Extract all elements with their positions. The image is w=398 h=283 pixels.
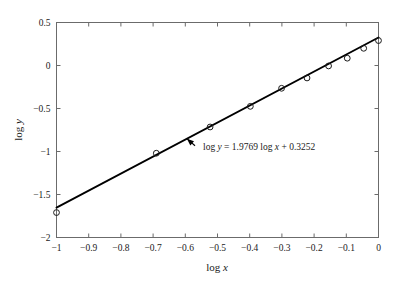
log-log-regression-chart: −1−0.9−0.8−0.7−0.6−0.5−0.4−0.3−0.2−0.10 …	[0, 0, 398, 283]
x-tick-label: −0.6	[177, 243, 194, 253]
regression-equation-annotation: log y = 1.9769 log x + 0.3252	[203, 142, 316, 152]
x-tick-label: −0.3	[273, 243, 290, 253]
annot-slope: 1.9769	[232, 142, 258, 152]
figure-container: −1−0.9−0.8−0.7−0.6−0.5−0.4−0.3−0.2−0.10 …	[0, 0, 398, 283]
y-tick-label: −0.5	[33, 104, 50, 114]
x-axis-title-var: x	[222, 261, 228, 273]
y-tick-label: 0.5	[39, 18, 51, 28]
annot-log-1: log	[203, 142, 215, 152]
x-tick-label: −0.8	[112, 243, 129, 253]
x-axis-title-log: log	[206, 261, 221, 273]
y-tick-label: 0	[46, 61, 51, 71]
y-axis-title-log: log	[12, 126, 24, 141]
annot-intercept: 0.3252	[289, 142, 315, 152]
annot-log-2: log	[260, 142, 272, 152]
y-axis-title: log y	[12, 119, 24, 141]
x-tick-label: −0.4	[241, 243, 258, 253]
x-tick-label: 0	[376, 243, 381, 253]
x-tick-label: −0.9	[80, 243, 97, 253]
y-tick-label: −2	[40, 233, 50, 243]
y-axis-title-var: y	[12, 119, 24, 125]
x-tick-label: −0.2	[305, 243, 322, 253]
x-tick-label: −1	[51, 243, 61, 253]
x-tick-label: −0.7	[144, 243, 161, 253]
y-tick-label: −1	[40, 147, 50, 157]
chart-background	[0, 0, 398, 283]
x-tick-label: −0.1	[338, 243, 355, 253]
x-axis-title: log x	[206, 261, 228, 273]
x-tick-label: −0.5	[209, 243, 226, 253]
y-tick-label: −1.5	[33, 190, 50, 200]
